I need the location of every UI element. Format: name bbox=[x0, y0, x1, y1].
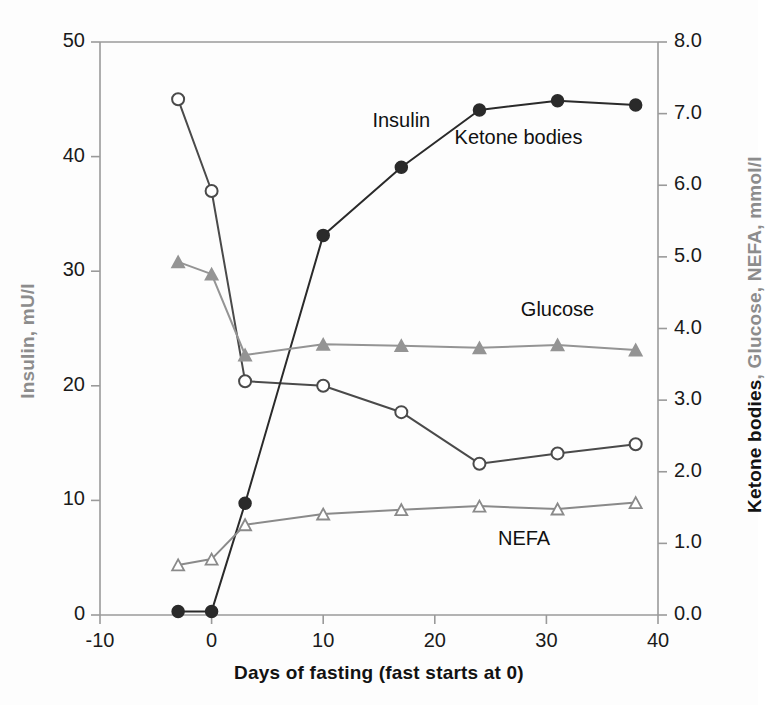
data-point-marker bbox=[317, 229, 329, 241]
data-point-marker bbox=[552, 95, 564, 107]
data-point-marker bbox=[172, 256, 184, 267]
x-axis-tick-label: 20 bbox=[400, 629, 470, 652]
y-axis-left-tick-label: 30 bbox=[25, 258, 85, 281]
series-annotation-ketone-bodies: Ketone bodies bbox=[455, 126, 583, 149]
y-axis-left-tick-label: 10 bbox=[25, 487, 85, 510]
data-point-marker bbox=[206, 605, 218, 617]
data-point-marker bbox=[206, 269, 218, 280]
y-axis-right-tick-label: 0.0 bbox=[674, 602, 734, 625]
x-axis-title: Days of fasting (fast starts at 0) bbox=[100, 662, 658, 684]
y-axis-right-tick-label: 3.0 bbox=[674, 387, 734, 410]
x-axis-tick-label: 30 bbox=[511, 629, 581, 652]
series-insulin bbox=[172, 93, 642, 469]
x-axis-tick-label: -10 bbox=[65, 629, 135, 652]
y-axis-left-tick-label: 50 bbox=[25, 29, 85, 52]
data-point-marker bbox=[172, 93, 184, 105]
y-axis-right-title: Ketone bodies, Glucose, NEFA, mmol/l bbox=[744, 173, 766, 513]
data-point-marker bbox=[473, 104, 485, 116]
y-axis-right-tick-label: 2.0 bbox=[674, 459, 734, 482]
data-point-marker bbox=[395, 161, 407, 173]
data-point-marker bbox=[473, 458, 485, 470]
data-point-marker bbox=[239, 375, 251, 387]
y-axis-right-title-gray: , Glucose, NEFA, mmol/l bbox=[744, 156, 765, 379]
y-axis-right-title-bold: Ketone bodies bbox=[744, 379, 765, 513]
data-point-marker bbox=[552, 447, 564, 459]
y-axis-left-tick-label: 0 bbox=[25, 602, 85, 625]
data-point-marker bbox=[172, 605, 184, 617]
y-axis-right-tick-label: 7.0 bbox=[674, 101, 734, 124]
data-point-marker bbox=[317, 380, 329, 392]
x-axis-tick-label: 10 bbox=[288, 629, 358, 652]
series-annotation-insulin: Insulin bbox=[372, 109, 430, 132]
y-axis-left-tick-label: 40 bbox=[25, 144, 85, 167]
data-point-marker bbox=[630, 99, 642, 111]
data-point-marker bbox=[239, 497, 251, 509]
y-axis-right-tick-label: 8.0 bbox=[674, 29, 734, 52]
series-line bbox=[178, 503, 636, 565]
x-axis-tick-label: 0 bbox=[177, 629, 247, 652]
data-point-marker bbox=[630, 438, 642, 450]
data-point-marker bbox=[395, 406, 407, 418]
y-axis-right-tick-label: 5.0 bbox=[674, 244, 734, 267]
y-axis-right-tick-label: 4.0 bbox=[674, 316, 734, 339]
y-axis-left-tick-label: 20 bbox=[25, 373, 85, 396]
y-axis-right-tick-label: 1.0 bbox=[674, 530, 734, 553]
y-axis-right-tick-label: 6.0 bbox=[674, 172, 734, 195]
data-point-marker bbox=[206, 185, 218, 197]
series-annotation-nefa: NEFA bbox=[498, 527, 550, 550]
x-axis-tick-label: 40 bbox=[623, 629, 693, 652]
series-annotation-glucose: Glucose bbox=[521, 298, 594, 321]
